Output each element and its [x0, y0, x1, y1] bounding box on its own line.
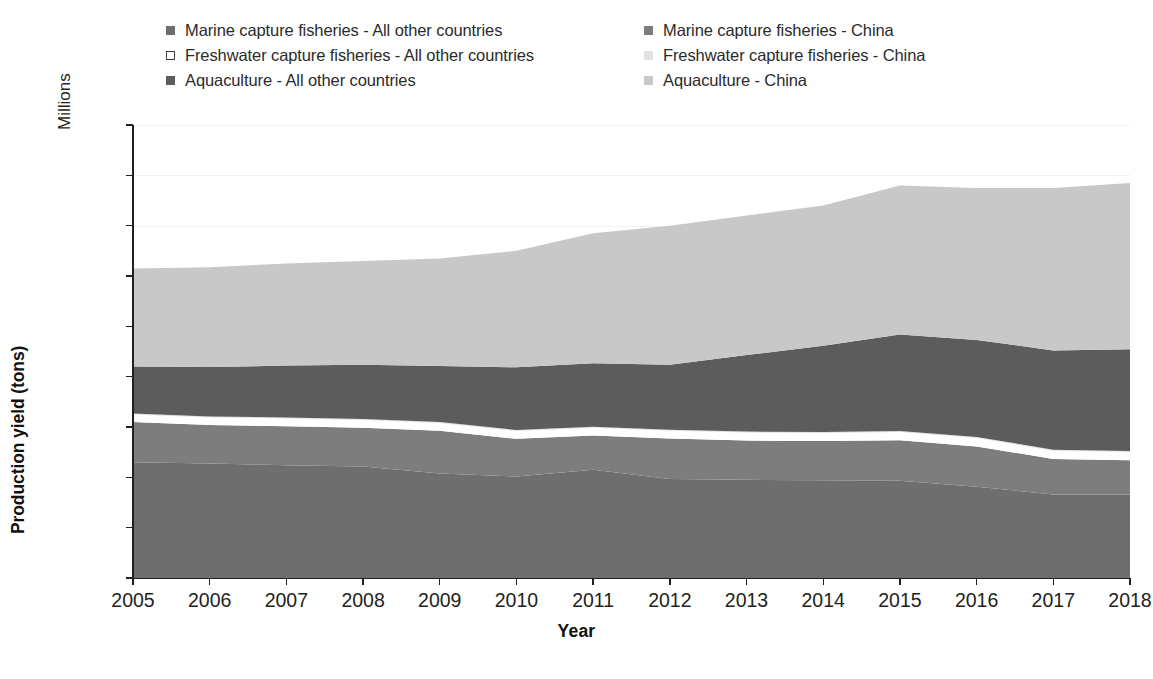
y-axis-line: [132, 125, 134, 579]
legend-swatch-marine-china: [644, 26, 653, 35]
x-tick-2006: [209, 578, 210, 585]
x-tick-label-2012: 2012: [635, 589, 705, 612]
x-tick-2007: [286, 578, 287, 585]
area-aquaculture-china: [133, 183, 1130, 367]
legend-label-marine-china: Marine capture fisheries - China: [663, 21, 894, 40]
x-tick-2016: [976, 578, 977, 585]
chart-figure: Marine capture fisheries - All other cou…: [0, 0, 1153, 679]
y-tick-60: [126, 426, 133, 427]
legend-label-aquaculture-other: Aquaculture - All other countries: [185, 71, 416, 90]
x-tick-label-2018: 2018: [1095, 589, 1153, 612]
x-tick-label-2010: 2010: [481, 589, 551, 612]
x-tick-label-2006: 2006: [175, 589, 245, 612]
x-tick-label-2017: 2017: [1018, 589, 1088, 612]
y-tick-20: [126, 527, 133, 528]
y-tick-160: [126, 175, 133, 176]
x-tick-2011: [592, 578, 593, 585]
x-axis-line: [132, 578, 1131, 580]
x-tick-label-2016: 2016: [942, 589, 1012, 612]
y-tick-140: [126, 225, 133, 226]
x-tick-2005: [132, 578, 133, 585]
legend-swatch-aquaculture-china: [644, 76, 653, 85]
x-tick-2013: [746, 578, 747, 585]
legend-column-left: Marine capture fisheries - All other cou…: [166, 18, 534, 93]
x-tick-2012: [669, 578, 670, 585]
legend-label-marine-other: Marine capture fisheries - All other cou…: [185, 21, 502, 40]
legend-column-right: Marine capture fisheries - China Freshwa…: [644, 18, 925, 93]
y-tick-80: [126, 376, 133, 377]
x-tick-label-2009: 2009: [405, 589, 475, 612]
x-tick-2014: [823, 578, 824, 585]
legend-item-freshwater-china[interactable]: Freshwater capture fisheries - China: [644, 43, 925, 68]
x-tick-label-2005: 2005: [98, 589, 168, 612]
legend-item-aquaculture-other[interactable]: Aquaculture - All other countries: [166, 68, 534, 93]
x-tick-2017: [1053, 578, 1054, 585]
legend-swatch-aquaculture-other: [166, 76, 175, 85]
legend-label-freshwater-other: Freshwater capture fisheries - All other…: [185, 46, 534, 65]
y-tick-180: [126, 124, 133, 125]
legend-item-freshwater-other[interactable]: Freshwater capture fisheries - All other…: [166, 43, 534, 68]
plot-area: [133, 125, 1130, 578]
x-tick-label-2008: 2008: [328, 589, 398, 612]
x-tick-2008: [362, 578, 363, 585]
x-tick-label-2013: 2013: [712, 589, 782, 612]
legend-item-marine-china[interactable]: Marine capture fisheries - China: [644, 18, 925, 43]
x-tick-label-2011: 2011: [558, 589, 628, 612]
legend-swatch-freshwater-china: [644, 51, 653, 60]
y-axis-labels: 020406080100120140160180: [0, 0, 124, 679]
legend-swatch-marine-other: [166, 26, 175, 35]
y-tick-40: [126, 477, 133, 478]
stacked-area-series: [133, 125, 1130, 578]
x-tick-2015: [899, 578, 900, 585]
x-axis-title: Year: [0, 621, 1153, 642]
x-tick-label-2014: 2014: [788, 589, 858, 612]
x-tick-2010: [516, 578, 517, 585]
x-tick-2009: [439, 578, 440, 585]
x-tick-2018: [1129, 578, 1130, 585]
legend-item-marine-other[interactable]: Marine capture fisheries - All other cou…: [166, 18, 534, 43]
legend-swatch-freshwater-other: [166, 51, 175, 60]
x-tick-label-2015: 2015: [865, 589, 935, 612]
x-tick-label-2007: 2007: [251, 589, 321, 612]
legend-label-freshwater-china: Freshwater capture fisheries - China: [663, 46, 925, 65]
y-tick-120: [126, 275, 133, 276]
legend-label-aquaculture-china: Aquaculture - China: [663, 71, 807, 90]
legend-item-aquaculture-china[interactable]: Aquaculture - China: [644, 68, 925, 93]
y-tick-100: [126, 326, 133, 327]
